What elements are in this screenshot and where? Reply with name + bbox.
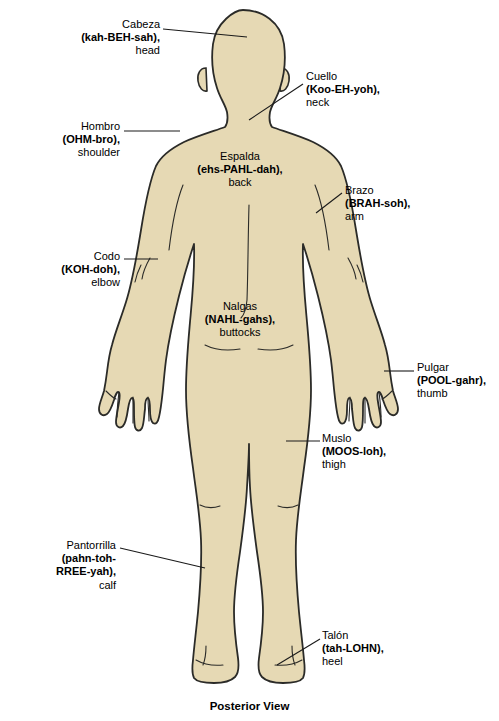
label-hombro-term: Hombro bbox=[12, 120, 120, 133]
label-hombro-english: shoulder bbox=[12, 146, 120, 159]
label-pulgar: Pulgar (POOL-gahr), thumb bbox=[417, 361, 497, 401]
label-codo-term: Codo bbox=[12, 250, 120, 263]
label-pantorrilla-term: Pantorrilla bbox=[6, 539, 116, 552]
label-muslo-english: thigh bbox=[322, 458, 462, 471]
label-espalda-english: back bbox=[166, 176, 314, 189]
label-brazo-english: arm bbox=[345, 210, 485, 223]
right-hand-finger-line-3 bbox=[349, 397, 350, 421]
label-espalda-pron: (ehs-PAHL-dah), bbox=[166, 163, 314, 176]
label-cabeza-pron: (kah-BEH-sah), bbox=[12, 31, 160, 44]
label-talon: Talón (tah-LOHN), heel bbox=[322, 629, 462, 669]
label-espalda: Espalda (ehs-PAHL-dah), back bbox=[166, 150, 314, 190]
label-cabeza: Cabeza (kah-BEH-sah), head bbox=[12, 18, 160, 58]
label-cabeza-english: head bbox=[12, 44, 160, 57]
label-espalda-term: Espalda bbox=[166, 150, 314, 163]
label-muslo-pron: (MOOS-loh), bbox=[322, 445, 462, 458]
body-silhouette bbox=[99, 10, 398, 683]
label-hombro: Hombro (OHM-bro), shoulder bbox=[12, 120, 120, 160]
label-codo-pron: (KOH-doh), bbox=[12, 263, 120, 276]
label-nalgas-term: Nalgas bbox=[166, 300, 314, 313]
label-pantorrilla-pron-2: RREE-yah), bbox=[6, 565, 116, 578]
label-brazo-term: Brazo bbox=[345, 184, 485, 197]
label-hombro-pron: (OHM-bro), bbox=[12, 133, 120, 146]
label-pulgar-pron: (POOL-gahr), bbox=[417, 374, 497, 387]
label-cuello: Cuello (Koo-EH-yoh), neck bbox=[306, 70, 456, 110]
view-caption: Posterior View bbox=[0, 700, 499, 712]
body-outline-shape bbox=[99, 10, 398, 683]
label-cabeza-term: Cabeza bbox=[12, 18, 160, 31]
label-talon-english: heel bbox=[322, 655, 462, 668]
label-pantorrilla-pron: (pahn-toh- bbox=[6, 552, 116, 565]
label-talon-pron: (tah-LOHN), bbox=[322, 642, 462, 655]
label-muslo: Muslo (MOOS-loh), thigh bbox=[322, 432, 462, 472]
anatomy-figure-stage: Cabeza (kah-BEH-sah), head Cuello (Koo-E… bbox=[0, 0, 499, 721]
label-pantorrilla: Pantorrilla (pahn-toh- RREE-yah), calf bbox=[6, 539, 116, 592]
label-brazo-pron: (BRAH-soh), bbox=[345, 197, 485, 210]
label-muslo-term: Muslo bbox=[322, 432, 462, 445]
label-cuello-english: neck bbox=[306, 96, 456, 109]
label-nalgas-english: buttocks bbox=[166, 326, 314, 339]
label-brazo: Brazo (BRAH-soh), arm bbox=[345, 184, 485, 224]
label-talon-term: Talón bbox=[322, 629, 462, 642]
label-pulgar-english: thumb bbox=[417, 387, 497, 400]
leader-line-pantorrilla bbox=[120, 548, 205, 568]
left-ear-shape bbox=[198, 68, 207, 91]
label-cuello-pron: (Koo-EH-yoh), bbox=[306, 83, 456, 96]
label-codo-english: elbow bbox=[12, 276, 120, 289]
label-cuello-term: Cuello bbox=[306, 70, 456, 83]
label-nalgas: Nalgas (NAHL-gahs), buttocks bbox=[166, 300, 314, 340]
label-codo: Codo (KOH-doh), elbow bbox=[12, 250, 120, 290]
label-pulgar-term: Pulgar bbox=[417, 361, 497, 374]
label-pantorrilla-english: calf bbox=[6, 579, 116, 592]
label-nalgas-pron: (NAHL-gahs), bbox=[166, 313, 314, 326]
